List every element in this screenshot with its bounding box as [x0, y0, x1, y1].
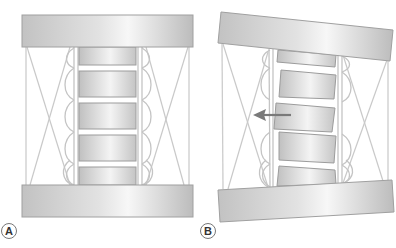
panel-b: B [201, 12, 395, 239]
svg-text:A: A [5, 225, 13, 237]
vertebra-blocks [79, 47, 136, 185]
block-1 [79, 47, 136, 65]
block-2 [79, 71, 136, 97]
block-3 [79, 103, 136, 129]
block-3-displaced [274, 103, 335, 132]
block-4 [79, 135, 136, 161]
block-4 [279, 132, 336, 163]
block-5 [79, 167, 136, 185]
bottom-plate [22, 185, 193, 217]
panel-label-a: A [2, 224, 17, 239]
svg-text:B: B [204, 225, 212, 237]
block-5 [277, 166, 336, 186]
spine-stability-diagram: A [0, 0, 396, 248]
bottom-plate [218, 180, 394, 222]
top-plate [22, 15, 193, 47]
panel-label-b: B [201, 224, 216, 239]
vertebra-blocks [274, 50, 336, 186]
block-2 [279, 70, 336, 99]
panel-a: A [2, 15, 194, 239]
